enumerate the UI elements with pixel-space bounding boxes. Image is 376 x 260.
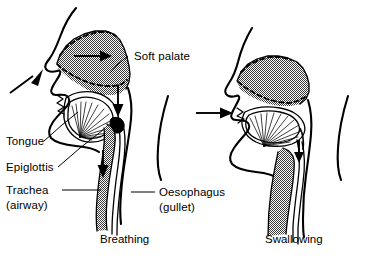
label-soft-palate: Soft palate [134, 50, 190, 62]
panel-swallowing [196, 28, 348, 244]
head-back-curve-right [338, 96, 348, 180]
nostril-inflow-arrow [10, 69, 43, 93]
label-tongue: Tongue [6, 135, 44, 147]
head-back-curve-left [158, 96, 168, 180]
caption-swallowing: Swallowing [265, 233, 323, 245]
pharynx-back-outline [120, 88, 131, 224]
neck-column-right [268, 148, 294, 236]
label-trachea-airway: (airway) [6, 199, 48, 211]
label-epiglottis: Epiglottis [6, 161, 54, 173]
label-oesophagus-gullet: (gullet) [159, 201, 195, 213]
leader-tongue [44, 112, 78, 141]
label-trachea: Trachea [6, 184, 49, 196]
diagram-canvas: Soft palate Tongue Epiglottis Trachea (a… [0, 0, 376, 260]
raised-soft-palate-region [237, 56, 309, 106]
caption-breathing: Breathing [100, 233, 149, 245]
tongue-structure-right [242, 107, 305, 146]
label-oesophagus: Oesophagus [159, 186, 225, 198]
mouth-inflow-arrow [196, 108, 233, 119]
anatomy-figure: Soft palate Tongue Epiglottis Trachea (a… [0, 0, 376, 260]
